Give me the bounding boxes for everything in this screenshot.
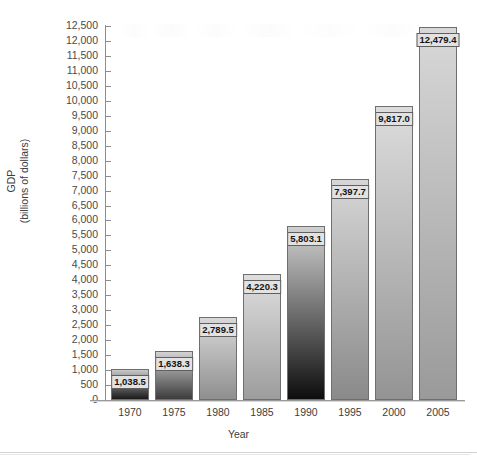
bar-1980[interactable]: 2,789.5	[199, 317, 237, 400]
chart-page: 12,50012,00011,50011,00010,50010,0009,50…	[0, 0, 477, 464]
x-axis-title: Year	[0, 428, 477, 440]
bar-value-label: 1,038.5	[111, 375, 149, 389]
y-axis-tick-label: 7,000	[40, 185, 98, 196]
y-axis-title-line-2: (billions of dollars)	[18, 101, 31, 261]
bar-1995[interactable]: 7,397.7	[331, 179, 369, 400]
y-axis-tick-label: 11,000	[40, 65, 98, 76]
x-axis-tick-label: 1975	[151, 406, 197, 418]
y-axis-tick-label: 7,500	[40, 170, 98, 181]
y-axis-tick-label: 8,500	[40, 140, 98, 151]
y-axis-tick-label: 4,000	[40, 274, 98, 285]
page-footer-rule	[0, 452, 477, 453]
y-axis-tick-label: 12,000	[40, 35, 98, 46]
x-axis-tick-label: 1985	[239, 406, 285, 418]
bar-value-label: 1,638.3	[155, 357, 193, 371]
y-axis-tick-label: 1,500	[40, 349, 98, 360]
y-axis-tick-label: 5,000	[40, 244, 98, 255]
bar-2005[interactable]: 12,479.4	[419, 27, 457, 400]
y-axis-tick-label: 2,000	[40, 334, 98, 345]
y-axis-tick-label: 3,000	[40, 304, 98, 315]
x-axis-tick-label: 1995	[327, 406, 373, 418]
y-axis-tick-label: 500	[40, 379, 98, 390]
y-axis-tick-label: 6,500	[40, 200, 98, 211]
y-axis-title: GDP (billions of dollars)	[5, 101, 31, 261]
bar-value-label: 7,397.7	[331, 185, 369, 199]
y-axis-tick-label: 3,500	[40, 289, 98, 300]
y-axis-tick-label: 8,000	[40, 155, 98, 166]
y-axis-tick-label: 9,500	[40, 110, 98, 121]
bar-value-label: 12,479.4	[417, 33, 460, 47]
y-axis-tick-label: 4,500	[40, 259, 98, 270]
bar-1990[interactable]: 5,803.1	[287, 226, 325, 400]
bar-1985[interactable]: 4,220.3	[243, 274, 281, 400]
bar-value-label: 5,803.1	[287, 232, 325, 246]
y-axis-tick-label: 1,000	[40, 364, 98, 375]
bar-value-label: 9,817.0	[375, 112, 413, 126]
bar-value-label: 2,789.5	[199, 323, 237, 337]
x-axis-line-shadow	[90, 401, 465, 402]
bar-1975[interactable]: 1,638.3	[155, 351, 193, 400]
x-axis-tick-label: 2000	[371, 406, 417, 418]
y-axis-title-line-1: GDP	[5, 101, 18, 261]
y-axis-tick-label: 10,000	[40, 95, 98, 106]
y-axis-tick-label: 9,000	[40, 125, 98, 136]
page-footer-rule-secondary	[0, 454, 470, 455]
plot-area: 1,038.51,638.32,789.54,220.35,803.17,397…	[105, 26, 457, 400]
x-axis-tick-label: 2005	[415, 406, 461, 418]
y-axis-tick-label: 2,500	[40, 319, 98, 330]
x-axis-tick-label: 1980	[195, 406, 241, 418]
y-axis-tick-label: 5,500	[40, 229, 98, 240]
y-axis-tick-label: 6,000	[40, 214, 98, 225]
x-axis-tick-label: 1990	[283, 406, 329, 418]
y-axis-tick-label: 12,500	[40, 20, 98, 31]
y-axis-tick-label: 11,500	[40, 50, 98, 61]
y-axis-tick-label: 10,500	[40, 80, 98, 91]
bar-2000[interactable]: 9,817.0	[375, 106, 413, 400]
bar-1970[interactable]: 1,038.5	[111, 369, 149, 400]
x-axis-tick-label: 1970	[107, 406, 153, 418]
scan-artifact-top	[150, 0, 270, 12]
bar-value-label: 4,220.3	[243, 280, 281, 294]
